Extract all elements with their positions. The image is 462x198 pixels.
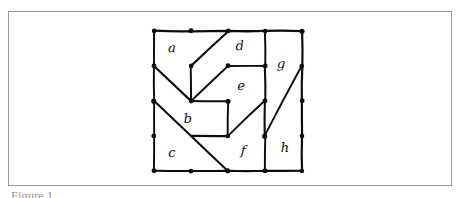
figure-caption: Figure 1. [11,189,441,198]
figure-frame [8,11,452,186]
